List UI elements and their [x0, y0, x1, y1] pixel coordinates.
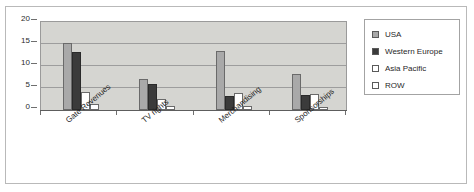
- y-axis-tick-mark: [31, 85, 37, 86]
- y-axis-tick-label: 10: [21, 59, 30, 67]
- y-axis-tick-label: 5: [26, 81, 30, 89]
- legend-item-label: USA: [385, 31, 401, 39]
- y-axis: 20 15 10 5 0: [6, 15, 38, 119]
- chart-figure: 20 15 10 5 0 Gate RevenuesTV rightsMerch…: [5, 6, 467, 184]
- y-axis-tick-mark: [31, 63, 37, 64]
- x-axis-tick-mark: [345, 111, 346, 115]
- y-axis-tick-mark: [31, 19, 37, 20]
- legend-swatch-icon: [372, 65, 379, 72]
- legend-item-asia-pacific[interactable]: Asia Pacific: [372, 60, 459, 77]
- legend-item-row[interactable]: ROW: [372, 77, 459, 94]
- x-axis-tick-mark: [116, 111, 117, 115]
- legend-item-label: Asia Pacific: [385, 65, 426, 73]
- y-axis-tick-label: 20: [21, 15, 30, 23]
- bar-usa-gate-revenues: [63, 43, 72, 110]
- y-axis-tick-label: 0: [26, 103, 30, 111]
- gridline: [41, 43, 346, 44]
- bar-western-europe-gate-revenues: [72, 52, 81, 110]
- x-axis-tick-mark: [193, 111, 194, 115]
- legend-swatch-icon: [372, 31, 379, 38]
- y-axis-tick-mark: [31, 41, 37, 42]
- bar-usa-merchandising: [216, 51, 225, 110]
- plot-area: [40, 21, 347, 111]
- legend-item-label: Western Europe: [385, 48, 443, 56]
- legend-item-label: ROW: [385, 82, 405, 90]
- legend-item-usa[interactable]: USA: [372, 26, 459, 43]
- gridline: [41, 65, 346, 66]
- bar-usa-tv-rights: [139, 79, 148, 110]
- chart-legend: USA Western Europe Asia Pacific ROW: [364, 19, 460, 95]
- y-axis-tick-label: 15: [21, 37, 30, 45]
- legend-item-western-europe[interactable]: Western Europe: [372, 43, 459, 60]
- x-axis-tick-mark: [269, 111, 270, 115]
- legend-swatch-icon: [372, 82, 379, 89]
- bar-usa-sponsorships: [292, 74, 301, 110]
- y-axis-tick-mark: [31, 107, 37, 108]
- legend-swatch-icon: [372, 48, 379, 55]
- x-axis-tick-mark: [40, 111, 41, 115]
